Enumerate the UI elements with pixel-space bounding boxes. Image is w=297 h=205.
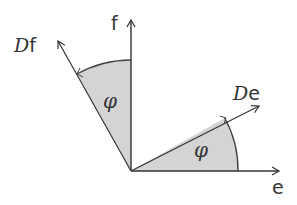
angle-sector-f-Df	[77, 60, 131, 171]
De-label-D: D	[232, 82, 248, 104]
De-label-e: e	[248, 82, 260, 104]
Df-label-f: f	[29, 34, 37, 56]
angle-label-upper: φ	[103, 89, 117, 113]
Df-label-D: D	[13, 34, 29, 56]
angle-label-lower: φ	[194, 138, 208, 162]
De-label: De	[232, 82, 260, 104]
f-axis-label: f	[111, 12, 119, 34]
frame-rotation-diagram: e f De Df φ φ	[0, 0, 297, 205]
e-axis-label: e	[272, 176, 284, 198]
Df-label: Df	[13, 34, 37, 56]
